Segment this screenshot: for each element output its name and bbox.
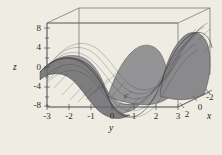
x-axis-label: x [207,112,211,122]
surface-mesh [40,23,212,118]
x-tick-label-0: 0 [194,103,206,112]
y-tick-label-0: 0 [106,112,118,121]
y-tick-label-neg2: -2 [62,112,76,121]
panel-label: c [124,91,128,100]
z-axis-label: z [13,63,17,73]
y-tick-label-neg3: -3 [40,112,54,121]
z-tick-label-neg8: -8 [21,101,41,110]
surface-plot-figure: 8 4 0 -4 -8 z -3 -2 -1 0 1 2 3 y 2 0 -2 … [0,0,222,155]
x-tick-label-neg2: -2 [206,93,222,102]
z-tick-label-neg4: -4 [21,82,41,91]
y-tick-label-2: 2 [150,112,162,121]
z-tick-label-0: 0 [25,63,41,72]
y-tick-label-1: 1 [128,112,140,121]
y-tick-label-neg1: -1 [84,112,98,121]
x-tick-label-2: 2 [181,110,193,119]
y-axis-label: y [109,124,113,134]
z-tick-label-4: 4 [25,43,41,52]
z-tick-label-8: 8 [25,24,41,33]
